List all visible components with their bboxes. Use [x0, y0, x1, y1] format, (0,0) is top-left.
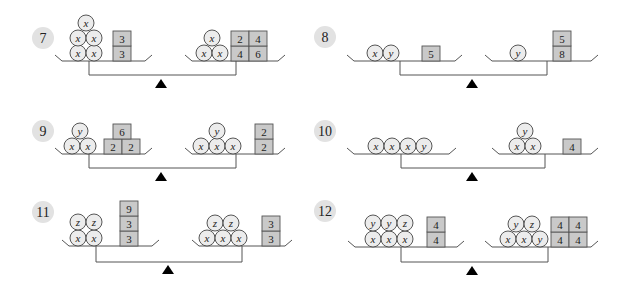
weight-block-3: 3 [113, 31, 131, 46]
ball-x: x [80, 138, 96, 154]
problem-10: 10xxxyxxy4 [314, 120, 598, 181]
ball-label: y [370, 217, 376, 229]
block-label: 4 [569, 141, 575, 153]
ball-label: x [402, 233, 408, 245]
block-label: 3 [126, 233, 132, 245]
left-pan: xxxxx33 [55, 15, 152, 61]
pan [492, 148, 598, 154]
ball-label: x [201, 47, 207, 59]
ball-y: y [508, 216, 524, 232]
ball-label: y [214, 125, 220, 137]
problem-number-badge: 8 [314, 26, 336, 48]
ball-x: x [509, 138, 525, 154]
fulcrum-icon [466, 172, 478, 181]
fulcrum-icon [466, 266, 478, 275]
ball-label: x [75, 32, 81, 44]
fulcrum-icon [162, 265, 174, 274]
ball-label: x [217, 47, 223, 59]
balance-beam [400, 61, 547, 75]
ball-label: x [386, 233, 392, 245]
ball-z: z [524, 216, 540, 232]
block-label: 3 [268, 218, 274, 230]
ball-label: y [522, 125, 528, 137]
ball-label: x [514, 140, 520, 152]
ball-y: y [381, 215, 397, 231]
ball-label: y [515, 47, 521, 59]
left-pan: xy5 [347, 45, 462, 61]
block-label: 4 [575, 234, 581, 246]
weight-block-4: 4 [551, 217, 569, 232]
weight-block-3: 3 [262, 216, 280, 231]
weight-block-3: 3 [120, 216, 138, 231]
ball-label: x [198, 140, 204, 152]
problem-number: 7 [40, 31, 47, 46]
block-label: 5 [559, 33, 565, 45]
block-label: 2 [128, 141, 134, 153]
block-label: 5 [428, 48, 434, 60]
block-label: 4 [237, 48, 243, 60]
ball-label: x [530, 140, 536, 152]
problem-number-badge: 12 [314, 200, 336, 222]
ball-x: x [231, 230, 247, 246]
pan [347, 55, 462, 61]
ball-label: z [228, 217, 234, 229]
weight-block-4: 4 [427, 217, 445, 232]
right-pan: xxx4624 [185, 30, 285, 61]
ball-z: z [397, 215, 413, 231]
ball-label: x [75, 47, 81, 59]
ball-x: x [397, 231, 413, 247]
pan [485, 55, 598, 61]
ball-label: x [373, 140, 379, 152]
ball-x: x [225, 138, 241, 154]
weight-block-4: 4 [231, 46, 249, 61]
block-label: 2 [237, 33, 243, 45]
ball-y: y [72, 123, 88, 139]
ball-x: x [400, 138, 416, 154]
ball-label: z [402, 217, 408, 229]
weight-block-4: 4 [427, 232, 445, 247]
block-label: 6 [255, 48, 261, 60]
ball-label: x [204, 232, 210, 244]
right-pan: xxy4 [492, 123, 598, 154]
problem-7: 7xxxxx33xxx4624 [32, 15, 285, 88]
block-label: 3 [268, 233, 274, 245]
block-label: 3 [126, 218, 132, 230]
ball-label: y [537, 233, 543, 245]
problem-number-badge: 11 [32, 201, 54, 223]
ball-x: x [86, 45, 102, 61]
left-pan: xxy226 [55, 123, 152, 154]
ball-label: y [421, 140, 427, 152]
ball-x: x [86, 230, 102, 246]
ball-x: x [381, 231, 397, 247]
ball-label: x [83, 17, 89, 29]
ball-x: x [86, 30, 102, 46]
problem-8: 8xy5y85 [314, 26, 598, 88]
block-label: 4 [575, 219, 581, 231]
left-pan: xxxy [347, 138, 456, 154]
block-label: 2 [261, 126, 267, 138]
ball-x: x [384, 138, 400, 154]
ball-label: x [69, 140, 75, 152]
right-pan: xxxzz33 [192, 215, 292, 246]
weight-block-6: 6 [113, 124, 131, 139]
ball-label: x [91, 32, 97, 44]
block-label: 3 [119, 33, 125, 45]
ball-label: y [386, 217, 392, 229]
balance-beam [89, 61, 236, 75]
ball-label: x [214, 140, 220, 152]
ball-label: x [209, 32, 215, 44]
ball-label: x [389, 140, 395, 152]
ball-label: x [372, 47, 378, 59]
ball-x: x [367, 45, 383, 61]
weight-block-2: 2 [255, 124, 273, 139]
weight-block-3: 3 [113, 46, 131, 61]
ball-x: x [196, 45, 212, 61]
balance-beam [96, 246, 242, 262]
balance-problems-diagram: 7xxxxx33xxx46248xy5y859xxy226xxxy2210xxx… [0, 0, 628, 294]
ball-label: x [405, 140, 411, 152]
ball-label: x [505, 233, 511, 245]
ball-x: x [78, 15, 94, 31]
balance-beam [401, 154, 545, 168]
ball-x: x [70, 30, 86, 46]
ball-x: x [365, 231, 381, 247]
